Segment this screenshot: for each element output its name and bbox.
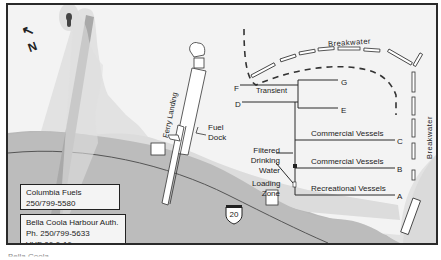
dock-a-letter: A	[397, 193, 402, 201]
dock-a-label: Recreational Vessels	[311, 185, 386, 193]
dock-c-letter: C	[397, 138, 403, 146]
contact-columbia-fuels: Columbia Fuels 250/799-5580	[20, 184, 120, 210]
dock-b-letter: B	[397, 166, 402, 174]
contact-vhf: VHF 06 & 16	[26, 239, 120, 245]
dock-b-label: Commercial Vessels	[311, 158, 383, 166]
harbour-map: ↖ N Breakwater Breakwater Ferry Landing …	[6, 3, 438, 245]
loading-line1: Loading	[252, 179, 280, 189]
fuel-dock-label: Fuel Dock	[208, 123, 226, 143]
loading-zone-label: Loading Zone	[252, 179, 280, 199]
highway-number: 20	[225, 210, 243, 219]
fuel-dock-line1: Fuel	[208, 123, 226, 133]
contact-phone: 250/799-5580	[26, 198, 114, 209]
dock-f-letter: F	[234, 85, 239, 93]
contact-name: Columbia Fuels	[26, 187, 114, 198]
breakwater-right-label: Breakwater	[426, 72, 434, 115]
dock-g-letter: G	[341, 79, 347, 87]
water-line1: Filtered	[246, 146, 280, 156]
fuel-dock-line2: Dock	[208, 133, 226, 143]
map-caption: Bella Coola	[8, 252, 49, 260]
water-line3: Water	[246, 166, 280, 176]
drinking-water-label: Filtered Drinking Water	[246, 146, 280, 176]
contact-name: Bella Coola Harbour Auth.	[26, 217, 120, 228]
dock-e-letter: E	[341, 107, 346, 115]
contact-harbour-authority: Bella Coola Harbour Auth. Ph. 250/799-56…	[20, 214, 126, 245]
loading-line2: Zone	[252, 189, 280, 199]
dock-d-letter: D	[235, 101, 241, 109]
water-line2: Drinking	[246, 156, 280, 166]
contact-phone: Ph. 250/799-5633	[26, 228, 120, 239]
highway-20-shield-icon: 20	[225, 203, 243, 225]
dock-c-label: Commercial Vessels	[311, 130, 383, 138]
dock-f-label: Transient	[256, 87, 287, 95]
